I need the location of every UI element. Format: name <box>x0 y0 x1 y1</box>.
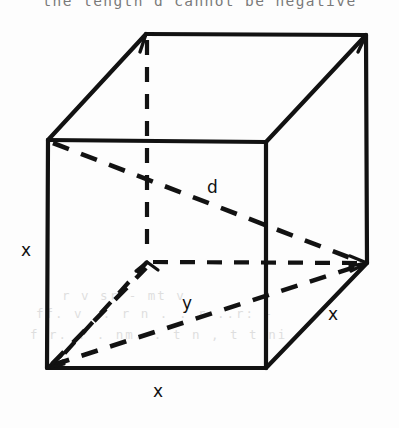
edge-back-top <box>146 34 366 35</box>
cube-figure: the length d cannot be negative r v sr -… <box>0 0 399 428</box>
cube-drawing <box>0 0 399 428</box>
edge-top-left-receding <box>48 34 146 140</box>
hidden-edge-back-bottom <box>153 262 361 263</box>
edge-top-right-receding <box>266 35 366 142</box>
label-edge-right: x <box>328 306 338 323</box>
edge-back-right <box>366 35 367 263</box>
label-space-diagonal: d <box>207 179 218 196</box>
label-edge-left: x <box>21 242 31 259</box>
edge-front-top <box>48 140 266 142</box>
edge-front-left <box>47 140 48 368</box>
space-diagonal-d <box>53 143 361 262</box>
label-face-diagonal: y <box>182 295 192 312</box>
label-edge-bottom: x <box>153 383 163 400</box>
